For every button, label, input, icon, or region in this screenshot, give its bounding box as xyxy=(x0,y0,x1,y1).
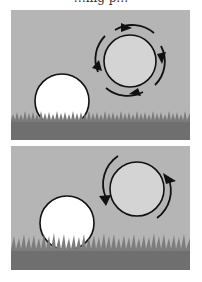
illustration-panel-top xyxy=(11,10,190,140)
figure-caption: …ing p… xyxy=(0,0,202,5)
illustration-panel-bottom xyxy=(11,146,190,270)
